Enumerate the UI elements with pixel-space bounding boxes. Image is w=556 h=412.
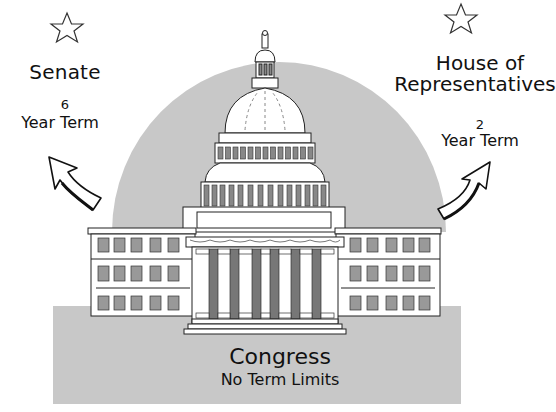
house-term-number: 2 [420,117,540,132]
congress-subtitle: No Term Limits [150,370,410,389]
senate-term-label: Year Term [0,113,120,132]
house-arrow-icon [438,162,490,219]
senate-title: Senate [10,60,120,84]
congress-title: Congress [150,344,410,369]
house-term-label: Year Term [416,131,544,150]
senate-arrow-icon [49,157,101,210]
senate-term-number: 6 [10,97,120,112]
senate-star-icon [51,13,83,42]
house-star-icon [445,4,477,33]
house-title-line2: Representatives [394,72,556,96]
